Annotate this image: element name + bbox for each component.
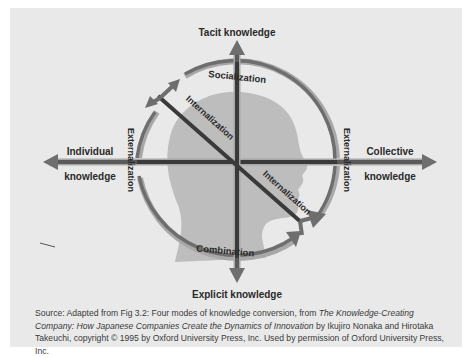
knowledge-conversion-diagram: Tacit knowledge Explicit knowledge Indiv… <box>0 0 471 357</box>
figure-caption: Source: Adapted from Fig 3.2: Four modes… <box>35 307 445 357</box>
stray-mark <box>40 243 55 247</box>
mode-label-externalization-right: Externalization <box>342 128 352 192</box>
caption-prefix: Source: Adapted from Fig 3.2: Four modes… <box>35 308 319 318</box>
axis-label-individual-2: knowledge <box>64 171 116 182</box>
mode-label-externalization-left: Externalization <box>126 128 136 192</box>
arrowhead-right-icon <box>422 154 437 170</box>
arrowhead-left-icon <box>43 154 58 170</box>
arrowhead-down-icon <box>229 268 245 283</box>
axis-label-collective-1: Collective <box>366 146 414 157</box>
axis-label-tacit: Tacit knowledge <box>198 27 275 38</box>
axis-label-collective-2: knowledge <box>364 171 416 182</box>
axis-label-explicit: Explicit knowledge <box>192 289 282 300</box>
axis-label-individual-1: Individual <box>67 146 114 157</box>
arrowhead-up-icon <box>229 40 245 55</box>
